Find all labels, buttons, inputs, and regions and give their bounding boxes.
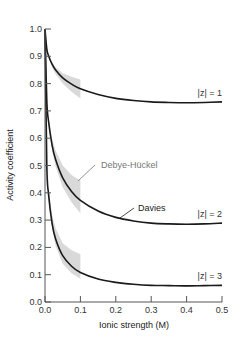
x-tick-label: 0.3: [145, 305, 158, 315]
y-tick-label: 0.8: [29, 79, 42, 89]
davies-curve-z3: [45, 29, 222, 286]
y-axis-label: Activity coefficient: [5, 129, 15, 201]
x-tick-label: 0.4: [180, 305, 193, 315]
y-tick-label: 0.6: [29, 133, 42, 143]
x-tick-label: 0.5: [216, 305, 229, 315]
series-label-z2: |z| = 2: [198, 209, 222, 219]
y-tick-label: 0.3: [29, 215, 42, 225]
davies-leader-line: [120, 208, 134, 218]
annotations: Debye-Hückel Davies: [78, 160, 166, 218]
davies-label: Davies: [138, 203, 166, 213]
series-label-z3: |z| = 3: [198, 271, 222, 281]
x-ticks: 0.00.10.20.30.40.5: [39, 296, 229, 315]
debye-huckel-leader-line: [78, 165, 95, 181]
debye-huckel-label: Debye-Hückel: [101, 160, 158, 170]
y-tick-label: 1.0: [29, 24, 42, 34]
debye-huckel-band-z1: [45, 29, 80, 99]
y-tick-label: 0.4: [29, 188, 42, 198]
debye-huckel-bands: [45, 29, 80, 279]
x-tick-label: 0.2: [110, 305, 123, 315]
x-tick-label: 0.0: [39, 305, 52, 315]
x-axis-label: Ionic strength (M): [99, 320, 169, 330]
debye-huckel-band-z3: [45, 29, 80, 279]
series-labels: |z| = 1|z| = 2|z| = 3: [198, 88, 222, 281]
y-tick-label: 0.5: [29, 161, 42, 171]
y-ticks: 0.00.10.20.30.40.50.60.70.80.91.0: [29, 24, 51, 307]
y-tick-label: 0.1: [29, 270, 42, 280]
y-tick-label: 0.7: [29, 106, 42, 116]
davies-curves: [45, 29, 222, 286]
x-tick-label: 0.1: [74, 305, 87, 315]
activity-coefficient-chart: 0.00.10.20.30.40.50.60.70.80.91.0 0.00.1…: [0, 0, 243, 338]
y-tick-label: 0.2: [29, 242, 42, 252]
y-tick-label: 0.9: [29, 51, 42, 61]
series-label-z1: |z| = 1: [198, 88, 222, 98]
